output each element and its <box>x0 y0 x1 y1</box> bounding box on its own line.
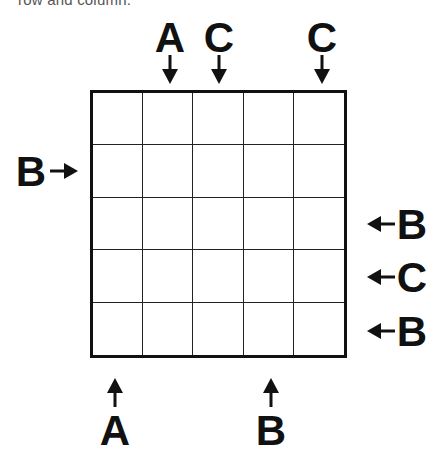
grid-cell[interactable] <box>143 145 193 197</box>
grid-cell[interactable] <box>294 93 344 145</box>
top-clue-col-2: A <box>153 17 187 59</box>
grid-cell[interactable] <box>193 145 243 197</box>
grid-cell[interactable] <box>93 145 143 197</box>
grid-cell[interactable] <box>93 198 143 250</box>
left-arrow-icon <box>367 215 395 233</box>
bottom-clue-col-4: B <box>254 410 288 452</box>
grid-cell[interactable] <box>93 93 143 145</box>
grid-cell[interactable] <box>294 303 344 355</box>
down-arrow-icon <box>312 55 332 85</box>
grid-cell[interactable] <box>193 250 243 302</box>
puzzle-grid <box>90 90 347 358</box>
grid-cell[interactable] <box>294 198 344 250</box>
grid-cell[interactable] <box>143 303 193 355</box>
grid-cell[interactable] <box>244 198 294 250</box>
grid-cell[interactable] <box>93 250 143 302</box>
grid-cell[interactable] <box>294 145 344 197</box>
up-arrow-icon <box>261 378 281 408</box>
grid-cell[interactable] <box>294 250 344 302</box>
grid-cell[interactable] <box>143 93 193 145</box>
grid-cell[interactable] <box>143 198 193 250</box>
grid-cell[interactable] <box>244 93 294 145</box>
grid-cell[interactable] <box>193 303 243 355</box>
left-clue-row-2: B <box>14 151 48 193</box>
grid-cell[interactable] <box>244 303 294 355</box>
right-arrow-icon <box>50 162 78 180</box>
top-clue-col-5: C <box>305 17 339 59</box>
grid-cell[interactable] <box>193 198 243 250</box>
right-clue-row-4: C <box>395 257 429 299</box>
top-clue-col-3: C <box>202 17 236 59</box>
grid-cell[interactable] <box>193 93 243 145</box>
grid-cell[interactable] <box>244 145 294 197</box>
right-clue-row-5: B <box>395 311 429 353</box>
left-arrow-icon <box>367 322 395 340</box>
bottom-clue-col-1: A <box>98 410 132 452</box>
instruction-text: row and column. <box>18 0 131 8</box>
right-clue-row-3: B <box>395 204 429 246</box>
grid-cell[interactable] <box>93 303 143 355</box>
down-arrow-icon <box>209 55 229 85</box>
down-arrow-icon <box>160 55 180 85</box>
grid-cell[interactable] <box>143 250 193 302</box>
grid-cell[interactable] <box>244 250 294 302</box>
up-arrow-icon <box>105 378 125 408</box>
left-arrow-icon <box>367 268 395 286</box>
